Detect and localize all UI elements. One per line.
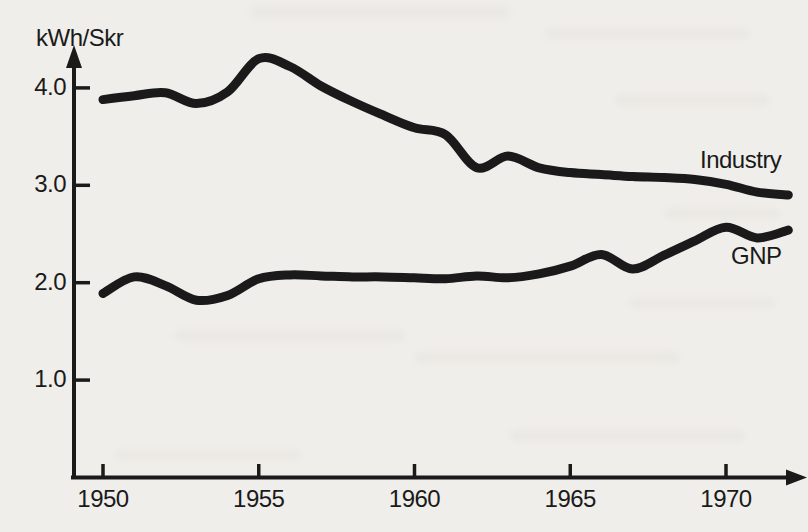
- x-tick-label: 1960: [375, 485, 455, 514]
- series-label-gnp: GNP: [731, 242, 782, 270]
- y-tick-label: 3.0: [20, 170, 66, 199]
- y-tick-label: 1.0: [20, 365, 66, 394]
- y-axis-title: kWh/Skr: [36, 24, 123, 52]
- x-axis-arrow-icon: [786, 470, 807, 486]
- gnp-curve: [103, 227, 788, 301]
- series-label-industry: Industry: [700, 146, 781, 174]
- x-tick-label: 1965: [530, 485, 610, 514]
- x-tick-label: 1955: [219, 485, 299, 514]
- scanned-book-figure: 4.03.02.01.019501955196019651970 kWh/Skr…: [0, 0, 808, 532]
- industry-curve: [103, 57, 788, 195]
- x-tick-label: 1950: [63, 485, 143, 514]
- y-tick-label: 4.0: [20, 73, 66, 102]
- x-tick-label: 1970: [686, 485, 766, 514]
- y-tick-label: 2.0: [20, 268, 66, 297]
- chart-canvas: [0, 0, 808, 532]
